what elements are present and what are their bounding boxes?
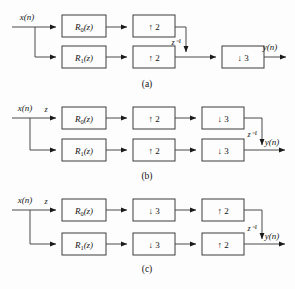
downsampler-top-label-c: ↓ 3 — [148, 206, 160, 216]
delay-label-c: z⁻¹ — [246, 224, 257, 233]
diagram-a: R0(z) R1(z) ↑ 2 ↑ 2 — [0, 0, 295, 96]
downsampler-block-top-c: ↓ 3 — [133, 199, 175, 221]
filter-r1-arg-c: (z) — [84, 240, 94, 250]
filter-block-r1-a: R1(z) — [62, 46, 106, 68]
caption-a: (a) — [142, 79, 153, 90]
filter-block-r0-b: R0(z) — [62, 107, 106, 129]
filter-r0-arg-a: (z) — [84, 22, 94, 32]
upsampler-top-label-b: ↑ 2 — [148, 114, 159, 124]
input-label-c: x(n) — [17, 195, 33, 205]
upsampler-block-bottom-c: ↑ 2 — [202, 233, 244, 255]
upsampler-block-top-a: ↑ 2 — [133, 15, 175, 37]
svg-text:R0(z): R0(z) — [74, 22, 93, 33]
svg-text:R1(z): R1(z) — [74, 146, 93, 157]
downsampler-label-a: ↓ 3 — [237, 53, 249, 63]
upsampler-block-bottom-b: ↑ 2 — [133, 139, 175, 161]
svg-text:R1(z): R1(z) — [74, 240, 93, 251]
diagram-c: z R0(z) R1(z) ↓ 3 — [0, 188, 295, 289]
filter-block-r1-b: R1(z) — [62, 139, 106, 161]
filter-block-r0-a: R0(z) — [62, 15, 106, 37]
output-label-b: y(n) — [264, 137, 280, 147]
svg-text:R0(z): R0(z) — [74, 114, 93, 125]
advance-label-b: z — [43, 105, 48, 114]
upsampler-block-bottom-a: ↑ 2 — [133, 46, 175, 68]
downsampler-block-bottom-c: ↓ 3 — [133, 233, 175, 255]
downsampler-bottom-label-b: ↓ 3 — [217, 146, 229, 156]
delay-label-a: z⁻¹ — [170, 38, 181, 47]
input-label-b: x(n) — [17, 103, 33, 113]
svg-text:R1(z): R1(z) — [74, 53, 93, 64]
downsampler-block-top-b: ↓ 3 — [202, 107, 244, 129]
upsampler-block-top-c: ↑ 2 — [202, 199, 244, 221]
filter-r1-arg-b: (z) — [84, 146, 94, 156]
upsampler-block-top-b: ↑ 2 — [133, 107, 175, 129]
input-wire-c — [12, 210, 30, 244]
diagram-b: z R0(z) R1(z) ↑ 2 — [0, 96, 295, 188]
downsampler-bottom-label-c: ↓ 3 — [148, 240, 160, 250]
filter-block-r0-c: R0(z) — [62, 199, 106, 221]
upsampler-top-label-c: ↑ 2 — [217, 206, 228, 216]
input-wire-a — [12, 27, 35, 57]
filter-r0-arg-c: (z) — [84, 206, 94, 216]
caption-c: (c) — [142, 264, 153, 275]
delay-label-b: z⁻¹ — [246, 130, 257, 139]
downsampler-top-label-b: ↓ 3 — [217, 114, 229, 124]
downsampler-block-bottom-b: ↓ 3 — [202, 139, 244, 161]
advance-label-c: z — [43, 197, 48, 206]
filter-block-r1-c: R1(z) — [62, 233, 106, 255]
filter-r1-arg-a: (z) — [84, 53, 94, 63]
upsampler-bottom-label-a: ↑ 2 — [148, 53, 159, 63]
filter-r0-arg-b: (z) — [84, 114, 94, 124]
upsampler-bottom-label-b: ↑ 2 — [148, 146, 159, 156]
upsampler-top-label-a: ↑ 2 — [148, 22, 159, 32]
svg-text:R0(z): R0(z) — [74, 206, 93, 217]
output-label-a: y(n) — [262, 42, 278, 52]
output-label-c: y(n) — [264, 231, 280, 241]
downsampler-block-a: ↓ 3 — [222, 46, 264, 68]
input-label-a: x(n) — [19, 12, 35, 22]
caption-b: (b) — [141, 171, 152, 182]
upsampler-bottom-label-c: ↑ 2 — [217, 240, 228, 250]
input-wire-b — [12, 118, 30, 150]
